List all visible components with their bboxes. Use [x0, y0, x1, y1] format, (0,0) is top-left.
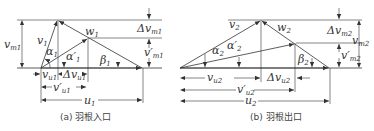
label-beta2: β2 [297, 53, 309, 67]
label-vm1-prime: v′m1 [144, 46, 164, 60]
label-alpha2-prime: α′2 [227, 39, 242, 53]
label-vu1-prime: v′u1 [53, 81, 71, 95]
label-dvm1: Δvm1 [136, 22, 162, 36]
label-dvu2: Δvu2 [266, 71, 291, 85]
label-dvu1: Δvu1 [62, 68, 86, 82]
label-alpha1: α1 [46, 45, 58, 59]
caption-a: (a) 羽根入口 [60, 111, 111, 122]
panel-b-blade-outlet: v2 w2 α2 α′2 β2 Δvm2 vm2 v′m2 vu2 Δvu2 v… [180, 8, 370, 122]
label-vu2: vu2 [207, 71, 223, 85]
v2-vector [180, 21, 260, 68]
w2-vector [262, 21, 329, 68]
panel-a-blade-inlet: vm1 v1 α1 α′1 w1 β1 Δvm1 v′m1 vu1 Δvu1 v… [4, 8, 164, 122]
label-vm2-prime: v′m2 [341, 49, 361, 63]
label-alpha1-prime: α′1 [66, 50, 80, 64]
label-vu1: vu1 [42, 68, 57, 82]
velocity-triangle-diagram: vm1 v1 α1 α′1 w1 β1 Δvm1 v′m1 vu1 Δvu1 v… [0, 0, 374, 131]
label-dvm2: Δvm2 [326, 24, 353, 38]
label-alpha2: α2 [212, 44, 224, 58]
label-u2: u2 [245, 94, 257, 108]
label-w2: w2 [277, 21, 291, 35]
label-vm2: vm2 [352, 34, 370, 48]
label-vm1: vm1 [4, 38, 21, 52]
caption-b: (b) 羽根出口 [250, 111, 302, 122]
label-w1: w1 [85, 25, 99, 39]
label-beta1: β1 [99, 54, 111, 68]
label-u1: u1 [84, 94, 96, 108]
